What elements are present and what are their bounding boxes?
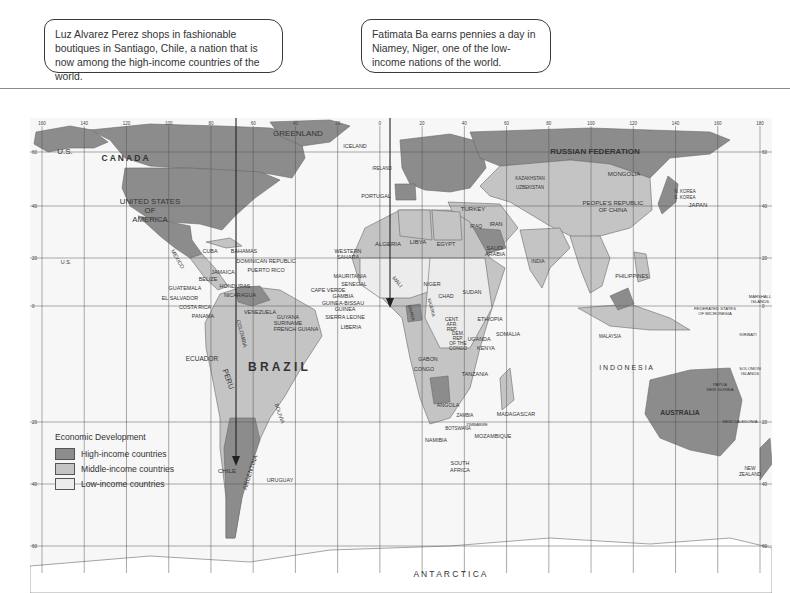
label-usa-2: OF	[145, 206, 156, 215]
longitude-tick-label: 60	[504, 121, 510, 126]
longitude-tick-label: 140	[672, 121, 680, 126]
longitude-tick-label: 20	[420, 121, 426, 126]
label-honduras: HONDURAS	[220, 283, 251, 289]
label-el-salvador: EL SALVADOR	[162, 295, 199, 301]
latitude-tick-label: 60	[32, 544, 38, 549]
label-micronesia-2: OF MICRONESIA	[698, 311, 732, 316]
label-marshall-2: ISLANDS	[751, 299, 769, 304]
longitude-tick-label: 140	[80, 121, 88, 126]
latitude-tick-label: 20	[762, 256, 768, 261]
longitude-tick-label: 80	[546, 121, 552, 126]
latitude-tick-label: 60	[762, 150, 768, 155]
label-dominican: DOMINICAN REPUBLIC	[236, 258, 295, 264]
legend-title: Economic Development	[55, 432, 174, 442]
label-algeria: ALGERIA	[375, 241, 401, 247]
latitude-tick-label: 20	[32, 420, 38, 425]
label-zimbabwe: ZIMBABWE	[466, 422, 488, 427]
longitude-tick-label: 20	[335, 121, 341, 126]
legend-label-middle: Middle-income countries	[81, 464, 174, 474]
label-french-guiana: FRENCH GUIANA	[274, 326, 319, 332]
label-usa-1: UNITED STATES	[120, 197, 180, 206]
label-western-sahara-2: SAHARA	[337, 254, 360, 260]
legend-label-low: Low-income countries	[81, 479, 165, 489]
label-drc-4: CONGO	[449, 346, 467, 351]
label-uganda: UGANDA	[467, 336, 490, 342]
label-usa-3: AMERICA	[132, 215, 168, 224]
label-india: INDIA	[531, 258, 545, 264]
label-kazakhstan: KAZAKHSTAN	[515, 176, 545, 181]
label-png-2: NEW GUINEA	[707, 387, 734, 392]
label-somalia: SOMALIA	[496, 331, 520, 337]
longitude-tick-label: 40	[462, 121, 468, 126]
label-uruguay: URUGUAY	[267, 477, 294, 483]
label-portugal: PORTUGAL	[361, 193, 391, 199]
label-south-korea: S. KOREA	[674, 195, 695, 200]
latitude-tick-label: 60	[762, 544, 768, 549]
label-iraq: IRAQ	[470, 223, 482, 229]
callout-niger: Fatimata Ba earns pennies a day in Niame…	[361, 19, 551, 73]
label-uzbekistan: UZBEKISTAN	[516, 185, 544, 190]
label-namibia: NAMIBIA	[425, 437, 448, 443]
label-brazil: B R A Z I L	[248, 360, 308, 374]
label-south-africa-1: SOUTH	[451, 460, 470, 466]
label-philippines: PHILIPPINES	[615, 273, 649, 279]
latitude-tick-label: 40	[32, 482, 38, 487]
label-madagascar: MADAGASCAR	[497, 411, 535, 417]
legend-swatch-high	[55, 448, 75, 460]
label-canada: C A N A D A	[101, 153, 148, 163]
country-portugal-spain	[395, 184, 416, 200]
callout-chile-text: Luz Alvarez Perez shops in fashionable b…	[55, 29, 259, 82]
label-japan: JAPAN	[689, 202, 708, 208]
label-libya: LIBYA	[410, 239, 427, 245]
label-tanzania: TANZANIA	[462, 371, 489, 377]
world-map: 1601401201008060402002040608010012014016…	[30, 118, 772, 593]
label-iceland: ICELAND	[343, 143, 366, 149]
label-australia: AUSTRALIA	[660, 409, 699, 416]
label-panama: PANAMA	[192, 313, 215, 319]
label-ethiopia: ETHIOPIA	[477, 316, 503, 322]
longitude-tick-label: 40	[293, 121, 299, 126]
longitude-tick-label: 120	[630, 121, 638, 126]
label-indonesia: I N D O N E S I A	[599, 364, 653, 371]
longitude-tick-label: 160	[38, 121, 46, 126]
label-chile: CHILE	[218, 467, 236, 474]
latitude-tick-label: 40	[762, 204, 768, 209]
label-new-zealand-1: NEW	[744, 466, 756, 471]
label-kenya: KENYA	[477, 345, 495, 351]
label-us-hawaii: U.S.	[61, 259, 71, 265]
divider-line	[0, 88, 790, 89]
label-kiribati: KIRIBATI	[739, 332, 756, 337]
longitude-tick-label: 100	[165, 121, 173, 126]
country-egypt	[432, 210, 462, 240]
label-gambia: GAMBIA	[333, 293, 354, 299]
label-cuba: CUBA	[203, 248, 218, 254]
label-guatemala: GUATEMALA	[169, 285, 202, 291]
label-sierra-leone: SIERRA LEONE	[325, 314, 365, 320]
label-nicaragua: NICARAGUA	[224, 292, 256, 298]
label-bahamas: BAHAMAS	[231, 248, 258, 254]
label-malaysia: MALAYSIA	[599, 334, 621, 339]
label-guinea: GUINEA	[335, 306, 356, 312]
label-chad: CHAD	[438, 293, 453, 299]
legend-item-high: High-income countries	[55, 446, 174, 461]
longitude-tick-label: 120	[123, 121, 131, 126]
callout-niger-text: Fatimata Ba earns pennies a day in Niame…	[372, 29, 535, 68]
callout-chile: Luz Alvarez Perez shops in fashionable b…	[44, 19, 283, 73]
legend-item-middle: Middle-income countries	[55, 461, 174, 476]
longitude-tick-label: 100	[587, 121, 595, 126]
latitude-tick-label: 20	[32, 256, 38, 261]
country-libya	[398, 210, 432, 240]
label-ecuador: ECUADOR	[186, 355, 219, 362]
label-niger: NIGER	[423, 281, 440, 287]
label-china-1: PEOPLE'S REPUBLIC	[583, 200, 645, 206]
label-gabon: GABON	[418, 356, 438, 362]
legend: Economic Development High-income countri…	[55, 432, 174, 491]
longitude-tick-label: 80	[208, 121, 214, 126]
label-iran: IRAN	[489, 221, 502, 227]
label-saudi-2: ARABIA	[485, 251, 506, 257]
label-puerto-rico: PUERTO RICO	[247, 267, 284, 273]
label-sudan: SUDAN	[463, 289, 482, 295]
label-belize: BELIZE	[199, 276, 218, 282]
label-costa-rica: COSTA RICA	[179, 304, 212, 310]
legend-label-high: High-income countries	[81, 449, 167, 459]
